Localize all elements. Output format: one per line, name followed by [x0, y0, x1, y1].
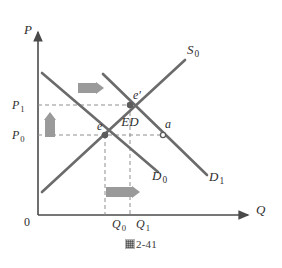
- supply-demand-diagram: PQ0P1P0Q0Q1D0D1S0ee′aED: [0, 0, 282, 268]
- price-rise-up-icon: [44, 112, 56, 137]
- figure-caption: 圖2-41: [0, 238, 282, 250]
- point-label-e-prime: e′: [133, 88, 141, 102]
- curve-label-s-0: S0: [187, 42, 200, 59]
- shift-arrows-group: [44, 82, 140, 198]
- origin-label: 0: [24, 215, 30, 229]
- curve-s-0: [42, 60, 185, 192]
- annotation-excess-demand: ED: [120, 114, 139, 129]
- x-tick-q1: Q1: [136, 217, 150, 233]
- quantity-increase-right-icon: [106, 186, 140, 198]
- point-label-a: a: [165, 117, 171, 131]
- curve-label-d-1: D1: [208, 169, 224, 186]
- caption-cjk-glyph-icon: 圖: [125, 239, 135, 249]
- point-a: [160, 132, 165, 137]
- y-axis-label: P: [23, 22, 32, 37]
- x-axis-label: Q: [256, 202, 266, 217]
- axes-group: [38, 32, 248, 215]
- point-e-prime: [127, 102, 132, 107]
- x-tick-q0: Q0: [112, 217, 126, 233]
- figure-container: PQ0P1P0Q0Q1D0D1S0ee′aED 圖2-41: [0, 0, 282, 268]
- caption-number: 2-41: [136, 238, 157, 250]
- point-label-e: e: [97, 119, 103, 133]
- y-tick-p0: P0: [11, 128, 25, 144]
- y-tick-p1: P1: [11, 98, 25, 114]
- point-e: [102, 132, 107, 137]
- curve-label-d-0: D0: [151, 168, 167, 185]
- demand-shift-right-top-icon: [78, 82, 104, 94]
